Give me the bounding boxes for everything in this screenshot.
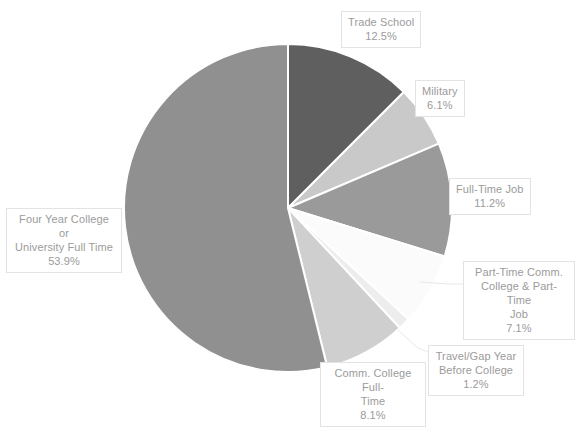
slice-label-four-year-college: Four Year College or University Full Tim… [6, 208, 122, 273]
slice-label-four-year-college-line1: Four Year College or [19, 213, 109, 239]
slice-label-comm-college-full-time: Comm. College Full- Time 8.1% [320, 362, 426, 427]
slice-label-part-time-college-line3: Job [470, 307, 568, 321]
pie-slices-group [124, 44, 452, 372]
slice-label-full-time-job-name: Full-Time Job [456, 183, 524, 195]
slice-label-trade-school-pct: 12.5% [348, 29, 414, 43]
slice-label-travel-gap-year-line2: Before College [435, 363, 517, 377]
slice-label-travel-gap-year-line1: Travel/Gap Year [436, 350, 517, 362]
slice-label-trade-school-name: Trade School [348, 16, 414, 28]
slice-label-four-year-college-line2: University Full Time [13, 240, 115, 254]
slice-label-part-time-college-line2: College & Part-Time [470, 279, 568, 307]
slice-label-comm-college-full-time-line1: Comm. College Full- [334, 367, 411, 393]
slice-label-travel-gap-year: Travel/Gap Year Before College 1.2% [428, 345, 524, 396]
slice-label-full-time-job-pct: 11.2% [456, 196, 524, 210]
leader-line-travel-gap [398, 330, 428, 352]
slice-label-comm-college-full-time-line2: Time [327, 394, 419, 408]
slice-label-military: Military 6.1% [415, 80, 465, 117]
slice-label-trade-school: Trade School 12.5% [341, 11, 421, 48]
slice-label-full-time-job: Full-Time Job 11.2% [449, 178, 531, 215]
slice-label-military-name: Military [422, 85, 458, 97]
slice-label-four-year-college-pct: 53.9% [13, 254, 115, 268]
slice-label-part-time-college-pct: 7.1% [470, 321, 568, 335]
slice-label-part-time-college: Part-Time Comm. College & Part-Time Job … [463, 261, 575, 340]
slice-label-comm-college-full-time-pct: 8.1% [327, 408, 419, 422]
slice-label-part-time-college-line1: Part-Time Comm. [475, 266, 563, 278]
slice-label-travel-gap-year-pct: 1.2% [435, 377, 517, 391]
slice-label-military-pct: 6.1% [422, 98, 458, 112]
